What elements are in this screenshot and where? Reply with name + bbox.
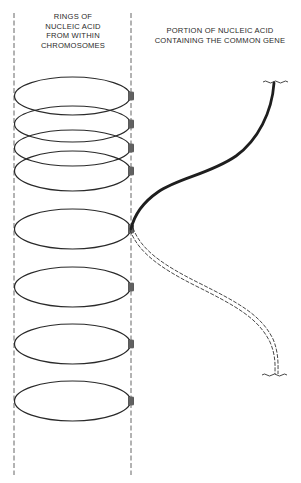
gene-marker-icon bbox=[128, 120, 134, 128]
ring-1 bbox=[15, 77, 131, 115]
gene-marker-icon bbox=[128, 92, 134, 100]
gene-marker-icon bbox=[128, 144, 134, 152]
ring-7 bbox=[15, 324, 131, 364]
gene-strand-double-dashed bbox=[130, 228, 278, 374]
gene-marker-icon bbox=[128, 340, 134, 348]
diagram-canvas bbox=[0, 0, 301, 483]
top-break-symbol bbox=[263, 81, 288, 83]
gene-marker-icon bbox=[128, 283, 134, 291]
ring-2 bbox=[15, 106, 131, 142]
ring-5 bbox=[15, 209, 131, 249]
gene-marker-icon bbox=[128, 167, 134, 175]
rings-group bbox=[15, 77, 131, 421]
rings-label: RINGS OF NUCLEIC ACID FROM WITHIN CHROMO… bbox=[18, 12, 128, 50]
gene-portion-label: PORTION OF NUCLEIC ACID CONTAINING THE C… bbox=[140, 26, 300, 45]
ring-6 bbox=[15, 267, 131, 307]
ring-8 bbox=[15, 381, 131, 421]
bottom-break-symbol bbox=[262, 374, 287, 376]
nucleic-acid-diagram: RINGS OF NUCLEIC ACID FROM WITHIN CHROMO… bbox=[0, 0, 301, 483]
ring-3 bbox=[15, 130, 131, 166]
gene-marker-icon bbox=[128, 397, 134, 405]
gene-strand-solid bbox=[131, 83, 274, 229]
ring-4 bbox=[15, 151, 131, 191]
